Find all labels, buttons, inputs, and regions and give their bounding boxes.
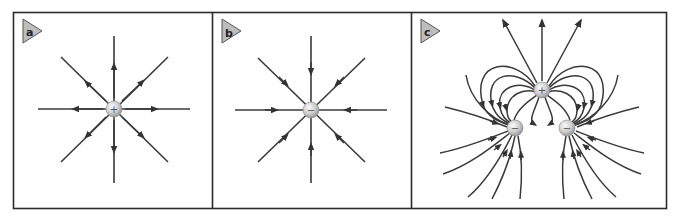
negative-charge-right: − (559, 120, 575, 136)
negative-charge-left: − (507, 120, 523, 136)
panel-b-label: b (222, 19, 241, 43)
panel-a-letter: a (26, 26, 33, 39)
charge-symbol: + (538, 85, 546, 96)
panel-c-letter: c (424, 26, 431, 39)
charge-symbol: + (110, 104, 118, 115)
positive-charge: + (534, 82, 550, 98)
charge-symbol: − (563, 123, 571, 134)
panel-c: c (421, 19, 644, 199)
field-lines-figure: a + b (0, 0, 679, 220)
panel-c-label: c (421, 19, 440, 43)
charge-symbol: − (511, 123, 519, 134)
charge-symbol: − (307, 105, 315, 116)
panel-a: a + (23, 19, 190, 183)
panel-c-field-lines (440, 20, 644, 199)
negative-charge: − (303, 102, 319, 118)
panel-a-label: a (23, 19, 42, 43)
positive-charge: + (106, 101, 122, 117)
panel-b: b − (222, 19, 387, 183)
panel-b-letter: b (225, 27, 233, 40)
